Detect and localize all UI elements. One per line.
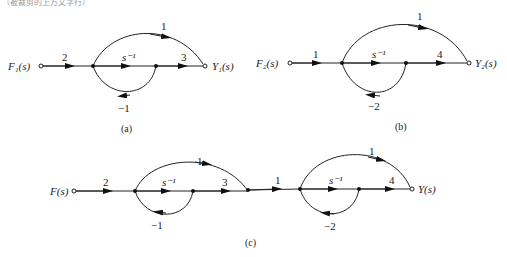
node-a-1: [91, 64, 95, 68]
label-a-input: F₁(s): [7, 60, 30, 73]
gain-c-forward2: s⁻¹: [329, 174, 343, 186]
node-a-2: [154, 64, 158, 68]
label-b-output: Y₂(s): [475, 57, 497, 70]
diagram-c: F(s) Y(s) 2 s⁻¹ 3 1 −1 1 s⁻¹ 4 1 −2 (c): [49, 145, 436, 249]
node-c-output: [410, 187, 414, 191]
edge-a-feedback: [93, 66, 156, 92]
node-b-2: [404, 61, 408, 65]
gain-a-output: 3: [181, 51, 187, 63]
node-b-1: [340, 61, 344, 65]
gain-c-feedforward2: 1: [369, 145, 375, 157]
node-c-2: [191, 189, 195, 193]
gain-c-feedforward1: 1: [197, 155, 203, 167]
gain-c-out1: 3: [222, 176, 228, 188]
signal-flow-graphs: （被裁剪的上方文字行） F₁(s) Y₁(s) 2 s⁻¹ 3 1 −1 (a): [0, 0, 507, 257]
node-b-output: [467, 61, 471, 65]
gain-a-input: 2: [62, 51, 68, 63]
node-c-input: [72, 189, 76, 193]
label-c-output: Y(s): [418, 183, 436, 196]
gain-b-feedforward: 1: [417, 10, 423, 22]
diagram-a: F₁(s) Y₁(s) 2 s⁻¹ 3 1 −1 (a): [7, 20, 234, 135]
node-a-input: [39, 64, 43, 68]
label-a-output: Y₁(s): [212, 60, 234, 73]
node-c-4: [298, 187, 302, 191]
edge-c-feedforward1: [135, 162, 248, 191]
gain-a-forward: s⁻¹: [122, 51, 136, 63]
gain-a-feedforward: 1: [161, 20, 167, 32]
label-b-input: F₂(s): [255, 57, 278, 70]
cropped-header-text: （被裁剪的上方文字行）: [2, 0, 90, 7]
node-c-3: [246, 188, 250, 192]
gain-c-link: 1: [275, 174, 281, 186]
gain-b-output: 4: [437, 48, 443, 60]
gain-c-forward1: s⁻¹: [162, 176, 176, 188]
diagram-b: F₂(s) Y₂(s) 1 s⁻¹ 4 1 −2 (b): [255, 10, 497, 133]
gain-b-feedback: −2: [368, 100, 380, 112]
gain-b-input: 1: [313, 48, 319, 60]
gain-a-feedback: −1: [118, 102, 130, 114]
gain-c-feedback1: −1: [151, 219, 163, 231]
edge-c-feedback1: [135, 191, 193, 214]
caption-b: (b): [395, 121, 407, 133]
node-c-1: [133, 189, 137, 193]
gain-c-input: 2: [103, 176, 109, 188]
gain-c-out2: 4: [389, 174, 395, 186]
edge-a-feedforward: [93, 33, 203, 66]
caption-a: (a): [121, 123, 132, 135]
node-a-output: [203, 64, 207, 68]
gain-b-forward: s⁻¹: [372, 48, 386, 60]
edge-c-feedback2: [300, 189, 359, 214]
node-c-5: [357, 187, 361, 191]
edge-b-feedforward: [342, 24, 467, 63]
label-c-input: F(s): [49, 185, 69, 198]
node-b-input: [288, 61, 292, 65]
edge-b-feedback: [342, 63, 406, 92]
gain-c-feedback2: −2: [324, 220, 336, 232]
caption-c: (c): [245, 237, 256, 249]
